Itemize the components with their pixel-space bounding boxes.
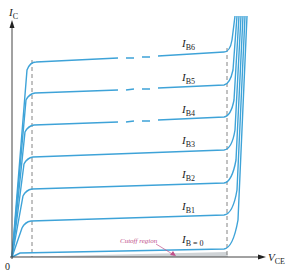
label-ib3: IB3 [181, 134, 195, 149]
x-axis-arrow-icon [258, 255, 266, 260]
y-axis-label: IC [8, 6, 18, 21]
label-ib1: IB1 [181, 200, 195, 215]
characteristic-curves-diagram: IC VCE 0 IB6 IB5 IB4 IB3 IB2 IB1 IB = 0 … [0, 0, 288, 277]
x-axis-label: VCE [268, 251, 285, 266]
label-ib4: IB4 [181, 103, 195, 118]
y-axis-arrow-icon [10, 20, 15, 28]
curve-group [12, 16, 247, 257]
label-ib2: IB2 [181, 168, 195, 183]
origin-label: 0 [5, 261, 10, 272]
label-ib6: IB6 [181, 37, 195, 52]
label-ib0: IB = 0 [181, 233, 204, 248]
label-ib5: IB5 [181, 71, 195, 86]
cutoff-region-label: Cutoff region [120, 237, 158, 245]
